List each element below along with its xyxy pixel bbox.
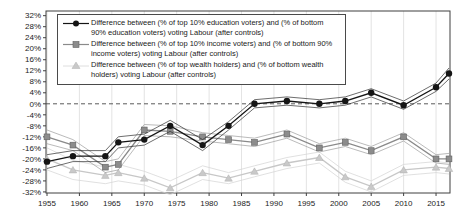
y-tick-label: 0% [29,100,41,109]
education-marker [115,139,121,145]
income-marker [102,164,108,170]
income-marker [284,131,290,137]
education-marker [342,98,348,104]
y-tick-label: 24% [25,33,41,42]
x-tick-label: 1960 [71,199,89,208]
legend-item-wealth: Difference between (% of top wealth hold… [63,60,340,79]
income-marker [368,148,374,154]
legend-label-income: Difference between (% of top 10% income … [91,39,340,58]
y-tick-label: 20% [25,44,41,53]
legend-item-income: Difference between (% of top 10% income … [63,39,340,58]
y-tick-label: -4% [27,111,41,120]
y-tick-label: 32% [25,11,41,20]
income-marker [226,137,232,143]
income-line-square-icon [63,39,91,52]
education-marker [400,102,406,108]
education-marker [102,153,108,159]
education-marker [44,158,50,164]
y-tick-label: 4% [29,88,41,97]
x-tick-label: 2000 [330,199,348,208]
income-marker [200,134,206,140]
income-marker [401,134,407,140]
education-marker [225,123,231,129]
wealth-marker [69,166,77,172]
education-marker [433,84,439,90]
income-marker [115,161,121,167]
education-marker [70,153,76,159]
y-tick-label: -8% [27,122,41,131]
x-tick-label: 1985 [233,199,251,208]
education-marker [446,70,452,76]
income-marker [252,139,258,145]
x-tick-label: 1975 [168,199,186,208]
y-tick-label: 28% [25,22,41,31]
income-marker [70,142,76,148]
x-tick-label: 1990 [265,199,283,208]
income-marker [44,134,50,140]
x-tick-label: 1965 [103,199,121,208]
education-marker [167,123,173,129]
wealth-triangle-icon [63,60,91,73]
x-tick-label: 2005 [362,199,380,208]
income-marker [342,139,348,145]
legend-label-education: Difference between (% of top 10% educati… [91,18,340,37]
chart-legend: Difference between (% of top 10% educati… [57,14,346,85]
wealth-marker [199,169,207,175]
wealth-marker [367,183,375,189]
y-tick-label: 8% [29,77,41,86]
legend-label-wealth: Difference between (% of top wealth hold… [91,60,340,79]
education-marker [199,142,205,148]
education-marker [284,98,290,104]
income-marker [316,145,322,151]
income-marker [446,156,452,162]
y-tick-label: -12% [22,133,41,142]
y-tick-label: -32% [22,188,41,197]
labour-vote-gap-chart: 32%28%24%20%16%12%8%4%0%-4%-8%-12%-16%-2… [0,0,469,220]
legend-item-education: Difference between (% of top 10% educati… [63,18,340,37]
wealth-marker [166,184,174,190]
income-marker [141,127,147,133]
y-tick-label: 16% [25,55,41,64]
x-tick-label: 1970 [135,199,153,208]
education-line-circle-icon [63,18,91,31]
y-tick-label: -28% [22,177,41,186]
x-tick-label: 1955 [38,199,56,208]
education-marker [251,101,257,107]
income-marker [433,156,439,162]
y-tick-label: -20% [22,155,41,164]
education-marker [368,90,374,96]
x-tick-label: 1995 [297,199,315,208]
y-tick-label: 12% [25,66,41,75]
x-tick-label: 1980 [200,199,218,208]
y-tick-label: -24% [22,166,41,175]
x-tick-label: 2010 [395,199,413,208]
x-tick-label: 2015 [427,199,445,208]
y-tick-label: -16% [22,144,41,153]
education-marker [316,101,322,107]
education-marker [141,136,147,142]
